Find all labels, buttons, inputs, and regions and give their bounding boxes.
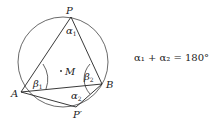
label-B: B <box>105 79 113 90</box>
label-P: P <box>65 5 73 16</box>
center-point-M <box>60 70 62 72</box>
angle-sum-equation: α₁ + α₂ = 180° <box>134 52 209 63</box>
label-beta1: β1 <box>32 78 43 90</box>
label-A: A <box>10 88 18 99</box>
label-P-prime: P′ <box>72 109 83 120</box>
circumcircle <box>18 17 108 107</box>
angle-arc-beta1 <box>43 64 48 89</box>
label-alpha2: α2 <box>71 90 82 102</box>
label-alpha1: α1 <box>66 25 77 37</box>
label-beta2: β2 <box>83 71 94 83</box>
label-M: M <box>64 66 76 77</box>
